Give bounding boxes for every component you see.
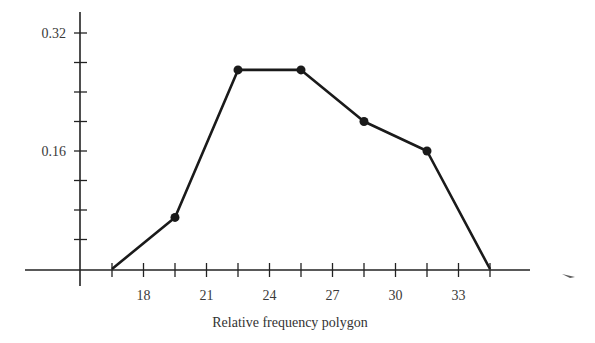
x-tick-label: 18 xyxy=(137,288,151,303)
x-tick-label: 27 xyxy=(326,288,340,303)
x-tick-label: 21 xyxy=(200,288,214,303)
polygon-line xyxy=(112,70,490,269)
axes xyxy=(25,12,530,286)
data-point-marker xyxy=(360,117,369,126)
x-tick-label: 30 xyxy=(389,288,403,303)
x-tick-label: 33 xyxy=(452,288,466,303)
x-tick-label: 24 xyxy=(263,288,277,303)
data-point-marker xyxy=(171,213,180,222)
y-tick-label: 0.32 xyxy=(42,26,67,41)
chart-title: Relative frequency polygon xyxy=(212,315,368,330)
data-point-marker xyxy=(297,65,306,74)
data-point-marker xyxy=(423,147,432,156)
data-series xyxy=(112,65,490,269)
tick-labels: 0.160.32182124273033 xyxy=(42,26,466,303)
stray-mark xyxy=(562,274,575,278)
y-tick-label: 0.16 xyxy=(42,144,67,159)
relative-frequency-polygon-chart: 0.160.32182124273033 Relative frequency … xyxy=(0,0,595,343)
data-point-marker xyxy=(234,65,243,74)
